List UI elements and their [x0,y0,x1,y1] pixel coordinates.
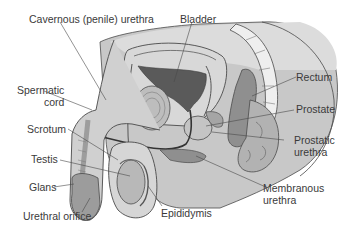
label-scrotum: Scrotum [27,123,66,135]
label-prostatic-urethra-line2: urethra [294,146,327,158]
label-prostate: Prostate [296,103,335,115]
testis [117,160,145,204]
label-spermatic-cord-line2: cord [44,96,64,108]
label-epididymis: Epididymis [161,207,212,219]
label-urethral-orifice: Urethral orifice [23,210,91,222]
label-rectum: Rectum [296,71,332,83]
anatomy-illustration [0,0,352,234]
label-cavernous-urethra: Cavernous (penile) urethra [29,13,154,25]
label-membranous-urethra-line1: Membranous [263,182,324,194]
label-membranous-urethra-line2: urethra [263,194,296,206]
label-bladder: Bladder [180,13,216,25]
label-spermatic-cord-line1: Spermatic [17,84,64,96]
label-testis: Testis [31,153,58,165]
label-glans: Glans [29,181,56,193]
label-prostatic-urethra-line1: Prostatic [294,134,335,146]
prostate [184,116,212,140]
